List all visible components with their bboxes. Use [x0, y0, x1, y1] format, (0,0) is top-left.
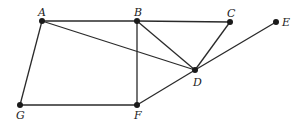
edge-B-D [137, 21, 195, 70]
edge-A-D [42, 21, 195, 70]
edge-F-D [137, 70, 195, 105]
node-F [134, 102, 140, 108]
node-label-D: D [193, 77, 202, 88]
node-label-B: B [134, 7, 142, 18]
node-label-C: C [227, 8, 235, 19]
graph-diagram: ABCEDGF [0, 0, 302, 121]
edge-D-E [195, 22, 276, 70]
edge-C-D [195, 22, 230, 70]
node-label-A: A [38, 7, 46, 18]
node-E [273, 19, 279, 25]
node-label-F: F [134, 110, 142, 121]
edge-A-G [20, 21, 42, 105]
edge-B-C [137, 21, 230, 22]
node-label-E: E [282, 17, 290, 28]
node-label-G: G [16, 110, 25, 121]
node-D [192, 67, 198, 73]
node-G [17, 102, 23, 108]
